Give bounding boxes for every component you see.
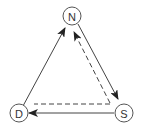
edge-n-to-s — [78, 24, 118, 99]
node-d: D — [10, 104, 28, 122]
node-n-label: N — [68, 11, 76, 23]
node-s: S — [115, 104, 133, 122]
node-n: N — [63, 7, 81, 25]
edge-s-to-n-dashed — [74, 32, 110, 103]
edge-d-to-n — [23, 28, 65, 106]
triangle-flow-diagram: N D S — [0, 0, 143, 133]
node-d-label: D — [15, 108, 23, 120]
node-s-label: S — [120, 108, 127, 120]
